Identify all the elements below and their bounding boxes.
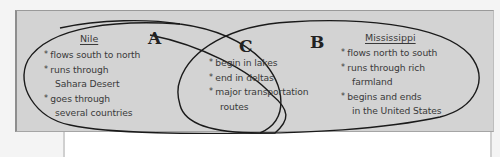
list-item: runs through rich (341, 61, 442, 76)
list-item: flows north to south (341, 46, 442, 61)
set-title-nile: Nile (80, 33, 98, 44)
list-item: end in deltas (209, 71, 308, 86)
list-item: begins and ends (341, 90, 442, 105)
list-item-continuation: Sahara Desert (44, 77, 140, 92)
list-item: flows south to north (44, 48, 140, 63)
list-item: major transportation (209, 85, 308, 100)
list-item-continuation: in the United States (341, 104, 442, 119)
list-item-continuation: several countries (44, 106, 140, 121)
set-title-mississippi: Mississippi (365, 32, 416, 43)
set-label-c: C (239, 36, 253, 56)
list-item: begin in lakes (209, 56, 308, 71)
set-label-a: A (148, 28, 161, 48)
list-item-continuation: routes (209, 100, 308, 115)
set-label-b: B (310, 32, 324, 52)
set-a-list: flows south to north runs through Sahara… (44, 48, 140, 121)
list-item: goes through (44, 92, 140, 107)
set-c-list: begin in lakes end in deltas major trans… (209, 56, 308, 114)
list-item: runs through (44, 63, 140, 78)
set-b-list: flows north to south runs through rich f… (341, 46, 442, 119)
list-item-continuation: farmland (341, 75, 442, 90)
